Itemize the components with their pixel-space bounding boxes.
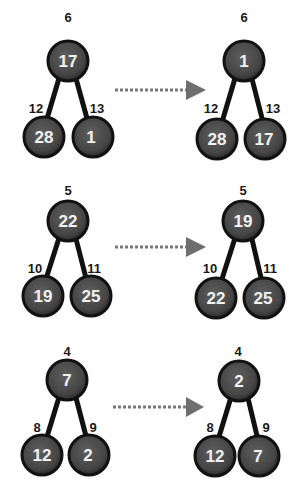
root-node: 1: [224, 41, 264, 81]
root-index-label: 5: [239, 183, 246, 198]
edge-right: [75, 75, 88, 122]
root-node: 2: [219, 361, 259, 401]
right-index-label: 11: [87, 261, 101, 276]
right-value: 1: [86, 128, 95, 147]
row-3: 4 8 9 7 12 2 4 8 9: [22, 344, 279, 476]
edge-right: [75, 235, 87, 282]
right-index-label: 9: [262, 420, 269, 435]
left-index-label: 10: [28, 261, 42, 276]
edge-left: [46, 75, 60, 122]
root-node: 19: [223, 201, 263, 241]
left-index-label: 12: [204, 101, 218, 116]
left-value: 22: [207, 289, 226, 308]
row-1: 6 12 13 17 28 1 6 12: [24, 10, 285, 159]
dotted-arrow-icon: [115, 237, 206, 257]
right-value: 25: [254, 289, 273, 308]
left-value: 28: [35, 128, 54, 147]
right-value: 17: [255, 130, 274, 149]
left-index-label: 8: [206, 420, 213, 435]
right-node: 25: [71, 276, 111, 316]
left-node: 12: [195, 436, 235, 476]
root-value: 7: [62, 371, 71, 390]
right-index-label: 13: [266, 101, 280, 116]
edge-right: [251, 75, 263, 122]
right-index-label: 11: [263, 261, 277, 276]
root-node: 7: [47, 360, 87, 400]
tree-before-3: 4 8 9 7 12 2: [22, 344, 109, 475]
right-node: 17: [245, 119, 285, 159]
dotted-arrow-icon: [115, 80, 206, 100]
left-index-label: 8: [33, 420, 40, 435]
row-2: 5 10 11 22 19 25 5 10 11: [23, 183, 284, 318]
root-value: 17: [59, 52, 78, 71]
left-node: 28: [197, 119, 237, 159]
edge-right: [75, 394, 87, 440]
left-value: 28: [208, 130, 227, 149]
dotted-arrow-icon: [113, 397, 204, 417]
root-index-label: 6: [64, 10, 71, 25]
right-index-label: 13: [90, 101, 104, 116]
left-value: 19: [34, 287, 53, 306]
right-node: 2: [69, 435, 109, 475]
left-index-label: 12: [29, 101, 43, 116]
root-value: 2: [234, 372, 243, 391]
tree-before-1: 6 12 13 17 28 1: [24, 10, 113, 157]
edge-left: [222, 75, 236, 122]
right-node: 1: [73, 117, 113, 157]
right-value: 2: [83, 446, 92, 465]
root-index-label: 4: [63, 344, 71, 359]
root-node: 22: [48, 201, 88, 241]
root-node: 17: [48, 41, 88, 81]
root-value: 19: [234, 212, 253, 231]
edge-left: [46, 394, 60, 440]
root-value: 22: [59, 212, 78, 231]
edge-left: [218, 394, 232, 440]
tree-after-3: 4 8 9 2 12 7: [195, 344, 279, 476]
left-index-label: 10: [203, 261, 217, 276]
heap-swap-diagram: 6 12 13 17 28 1 6 12: [0, 0, 303, 502]
edge-right: [251, 235, 262, 282]
edge-left: [221, 235, 236, 282]
left-node: 22: [196, 278, 236, 318]
root-index-label: 4: [234, 344, 242, 359]
tree-before-2: 5 10 11 22 19 25: [23, 183, 111, 316]
left-value: 12: [206, 447, 225, 466]
root-index-label: 6: [240, 10, 247, 25]
left-node: 19: [23, 276, 63, 316]
left-node: 12: [22, 435, 62, 475]
left-node: 28: [24, 117, 64, 157]
right-node: 7: [239, 436, 279, 476]
right-value: 7: [253, 447, 262, 466]
right-index-label: 9: [89, 420, 96, 435]
left-value: 12: [33, 446, 52, 465]
edge-right: [247, 394, 258, 440]
right-value: 25: [82, 287, 101, 306]
tree-after-2: 5 10 11 19 22 25: [196, 183, 284, 318]
root-index-label: 5: [64, 183, 71, 198]
tree-after-1: 6 12 13 1 28 17: [197, 10, 285, 159]
root-value: 1: [239, 52, 248, 71]
right-node: 25: [244, 278, 284, 318]
